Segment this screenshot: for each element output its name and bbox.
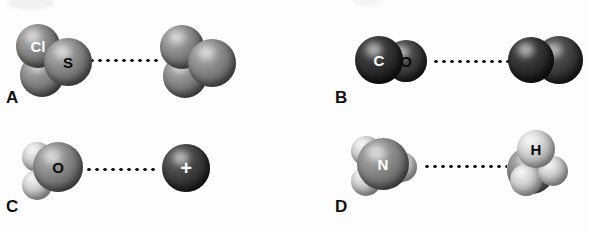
atom-oxygen-water: O	[33, 142, 83, 192]
panel-c: O + C	[0, 116, 294, 232]
interaction-line-b	[432, 59, 510, 64]
atom-right-center	[188, 39, 236, 87]
atom-label-n: N	[357, 138, 409, 190]
panel-b: C O B	[295, 0, 589, 116]
cation-charge-symbol: +	[162, 144, 210, 192]
atom-hydrogen-labeled: H	[517, 130, 555, 168]
panel-d: N H D	[295, 116, 589, 232]
panel-label-b: B	[335, 88, 348, 108]
atom-cation: +	[162, 144, 210, 192]
atom-label-h: H	[517, 130, 555, 168]
interaction-line-d	[423, 164, 507, 169]
interaction-line-a	[88, 58, 162, 63]
panel-a: Cl S A	[0, 0, 294, 116]
atom-sulfur-labeled: S	[44, 38, 92, 86]
panel-label-a: A	[6, 88, 19, 108]
atom-label-c: C	[355, 36, 403, 84]
interaction-line-c	[85, 167, 159, 172]
panel-label-c: C	[6, 197, 19, 217]
atom-label-o-water: O	[33, 142, 83, 192]
atom-right-carbon	[508, 37, 554, 83]
atom-label-s: S	[44, 38, 92, 86]
atom-nitrogen-labeled: N	[357, 138, 409, 190]
atom-carbon-labeled: C	[355, 36, 403, 84]
molecular-interaction-figure: Cl S A C O	[0, 0, 589, 232]
panel-label-d: D	[335, 197, 348, 217]
